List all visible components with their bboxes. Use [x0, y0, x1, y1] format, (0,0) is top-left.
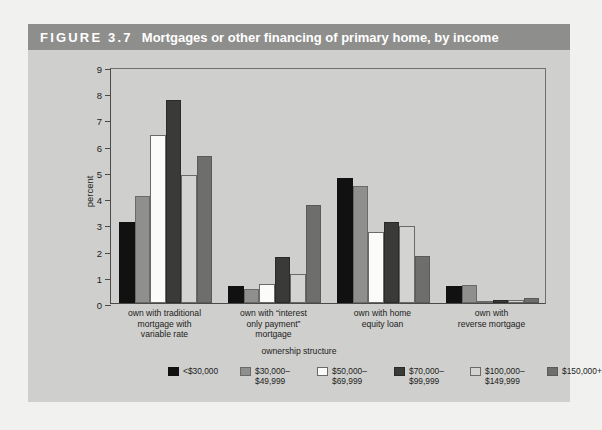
- x-axis-category-label: own with traditional mortgage with varia…: [110, 308, 219, 340]
- figure-title: Mortgages or other financing of primary …: [142, 30, 499, 45]
- legend-item[interactable]: $50,000– $69,999: [317, 366, 367, 386]
- y-axis-tick: [105, 174, 111, 175]
- legend-label: $50,000– $69,999: [332, 366, 367, 386]
- legend-swatch: [470, 367, 481, 376]
- x-axis-category-label: own with home equity loan: [328, 308, 437, 329]
- bar: [508, 300, 524, 303]
- legend-item[interactable]: <$30,000: [168, 366, 218, 376]
- y-axis-tick: [105, 69, 111, 70]
- legend-swatch: [547, 367, 558, 376]
- bar: [368, 232, 384, 303]
- legend-item[interactable]: $150,000+: [547, 366, 602, 376]
- legend-item[interactable]: $30,000– $49,999: [240, 366, 290, 386]
- x-axis-title: ownership structure: [28, 346, 570, 356]
- bar: [306, 205, 322, 303]
- y-axis-tick: [105, 253, 111, 254]
- bar: [290, 274, 306, 303]
- bar: [275, 257, 291, 303]
- bar: [244, 289, 260, 303]
- legend-label: $150,000+: [562, 366, 602, 376]
- y-axis-tick: [105, 148, 111, 149]
- bar: [135, 196, 151, 304]
- bar: [415, 256, 431, 303]
- figure-number: FIGURE 3.7: [40, 30, 133, 45]
- bar: [446, 286, 462, 303]
- plot-area: 0123456789: [110, 68, 546, 304]
- legend-swatch: [394, 367, 405, 376]
- legend-swatch: [168, 367, 179, 376]
- y-axis-tick-label: 5: [97, 168, 102, 179]
- figure-title-bar: FIGURE 3.7 Mortgages or other financing …: [28, 24, 570, 50]
- y-axis-tick-label: 0: [97, 300, 102, 311]
- bar: [524, 298, 540, 303]
- x-axis-category-label: own with reverse mortgage: [437, 308, 546, 329]
- figure-container: FIGURE 3.7 Mortgages or other financing …: [28, 24, 570, 402]
- legend-label: $100,000– $149,999: [485, 366, 525, 386]
- y-axis-tick-label: 1: [97, 273, 102, 284]
- y-axis-title: percent: [84, 176, 95, 208]
- legend-label: $70,000– $99,999: [409, 366, 444, 386]
- legend-swatch: [317, 367, 328, 376]
- bar: [493, 300, 509, 303]
- y-axis-tick-label: 6: [97, 142, 102, 153]
- bar: [337, 178, 353, 303]
- y-axis-tick-label: 7: [97, 116, 102, 127]
- y-axis-tick-label: 3: [97, 221, 102, 232]
- bar: [477, 301, 493, 303]
- y-axis-tick-label: 4: [97, 195, 102, 206]
- bar: [166, 100, 182, 303]
- y-axis-tick: [105, 226, 111, 227]
- y-axis-tick-label: 8: [97, 90, 102, 101]
- y-axis-tick: [105, 200, 111, 201]
- x-axis-category-label: own with “interest only payment” mortgag…: [219, 308, 328, 340]
- legend-swatch: [240, 367, 251, 376]
- bar: [197, 156, 213, 303]
- bar: [353, 186, 369, 303]
- y-axis-tick-label: 2: [97, 247, 102, 258]
- legend-item[interactable]: $70,000– $99,999: [394, 366, 444, 386]
- y-axis-tick: [105, 279, 111, 280]
- bar: [462, 285, 478, 303]
- bar: [119, 222, 135, 303]
- y-axis-tick-label: 9: [97, 64, 102, 75]
- legend-label: $30,000– $49,999: [255, 366, 290, 386]
- bar: [399, 226, 415, 303]
- legend-item[interactable]: $100,000– $149,999: [470, 366, 525, 386]
- bar: [384, 222, 400, 303]
- bar: [181, 175, 197, 303]
- y-axis-tick: [105, 121, 111, 122]
- bar: [150, 135, 166, 303]
- legend-label: <$30,000: [183, 366, 218, 376]
- bar: [228, 286, 244, 303]
- chart-legend: <$30,000$30,000– $49,999$50,000– $69,999…: [110, 366, 546, 396]
- bar: [259, 284, 275, 303]
- chart-body: percent 0123456789 own with traditional …: [28, 50, 570, 402]
- y-axis-tick: [105, 305, 111, 306]
- y-axis-tick: [105, 95, 111, 96]
